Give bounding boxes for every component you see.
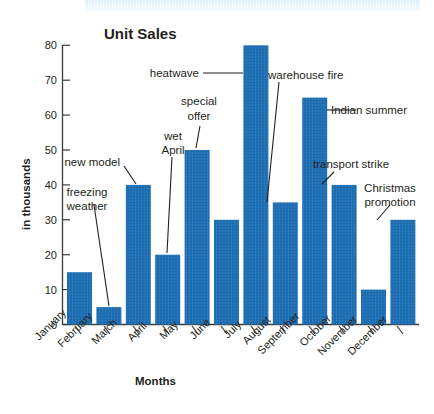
y-tick-70: 70 — [45, 74, 57, 86]
bar-december[interactable] — [390, 220, 415, 325]
y-tick-80: 80 — [45, 39, 57, 51]
y-tick-10: 10 — [45, 284, 57, 296]
bar-june[interactable] — [214, 220, 239, 325]
annotation-transport-strike: transport strike — [313, 158, 389, 170]
chart-svg: Unit Sales 0 10 20 30 40 50 60 70 80 in … — [0, 0, 434, 414]
bar-april[interactable] — [155, 255, 180, 325]
bar-chart-figure: Unit Sales 0 10 20 30 40 50 60 70 80 in … — [0, 0, 434, 414]
annotation-christmas-promotion-line2: promotion — [364, 196, 415, 208]
annotation-special-offer-line2: offer — [188, 110, 211, 122]
annotation-new-model: new model — [64, 156, 120, 168]
bar-august[interactable] — [273, 202, 298, 324]
bar-may[interactable] — [185, 150, 210, 325]
annotation-wet-april-line1: wet — [163, 130, 183, 142]
annotation-indian-summer: Indian summer — [331, 104, 407, 116]
annotation-wet-april-line2: April — [161, 144, 184, 156]
y-tick-50: 50 — [45, 144, 57, 156]
bar-july[interactable] — [243, 45, 268, 324]
annotation-heatwave: heatwave — [150, 67, 199, 79]
bar-march[interactable] — [126, 185, 151, 325]
x-axis-title: Months — [135, 375, 176, 387]
annotation-freezing-weather-line1: freezing — [67, 186, 108, 198]
y-tick-60: 60 — [45, 109, 57, 121]
y-tick-40: 40 — [45, 179, 57, 191]
y-axis-title: in thousands — [20, 158, 32, 230]
y-tick-20: 20 — [45, 249, 57, 261]
annotation-warehouse-fire: warehouse fire — [267, 69, 343, 81]
y-tick-30: 30 — [45, 214, 57, 226]
y-axis-tick-labels: 0 10 20 30 40 50 60 70 80 — [45, 39, 57, 330]
chart-title: Unit Sales — [104, 25, 177, 42]
annotation-christmas-promotion-line1: Christmas — [364, 182, 416, 194]
annotation-freezing-weather-line2: weather — [66, 200, 108, 212]
bar-october[interactable] — [332, 185, 357, 325]
bar-september[interactable] — [302, 98, 327, 325]
annotation-special-offer-line1: special — [181, 95, 217, 107]
